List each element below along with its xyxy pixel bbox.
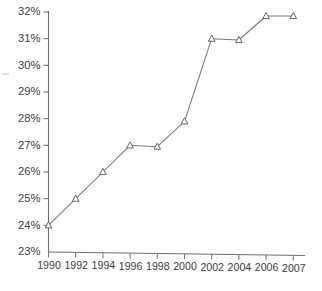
data-markers xyxy=(45,12,296,228)
data-point-marker xyxy=(208,35,215,41)
x-axis: 1990199219941996199820002002200420062007 xyxy=(37,252,305,274)
x-tick-label: 1990 xyxy=(37,259,61,271)
data-point-marker xyxy=(127,142,134,148)
series-line xyxy=(49,16,294,225)
data-point-marker xyxy=(181,118,188,124)
chart-canvas: 23%24%25%26%27%28%29%30%31%32% 199019921… xyxy=(0,0,322,291)
x-tick-label: 2006 xyxy=(255,261,279,273)
x-tick-label: 2002 xyxy=(200,261,224,273)
y-tick-label: 31% xyxy=(18,32,40,44)
y-tick-label: 26% xyxy=(18,165,40,177)
y-tick-label: 29% xyxy=(18,85,40,97)
x-tick-label: 2007 xyxy=(282,262,306,274)
x-tick-label: 1996 xyxy=(119,260,143,272)
y-tick-label: 27% xyxy=(18,139,40,151)
x-tick-label: 1994 xyxy=(92,259,116,271)
y-axis: 23%24%25%26%27%28%29%30%31%32% xyxy=(18,5,48,257)
y-tick-label: 24% xyxy=(18,219,40,231)
y-tick-label: 32% xyxy=(18,5,40,17)
screenshot-page: 23%24%25%26%27%28%29%30%31%32% 199019921… xyxy=(0,0,322,291)
x-tick-label: 2004 xyxy=(228,261,252,273)
x-tick-label: 2000 xyxy=(173,260,197,272)
x-tick-label: 1998 xyxy=(146,260,170,272)
y-tick-label: 25% xyxy=(18,192,40,204)
line-chart: 23%24%25%26%27%28%29%30%31%32% 199019921… xyxy=(0,0,322,291)
y-tick-label: 28% xyxy=(18,112,40,124)
data-series xyxy=(49,16,294,225)
x-tick-label: 1992 xyxy=(64,259,88,271)
y-tick-label: 30% xyxy=(18,59,40,71)
y-tick-label: 23% xyxy=(18,245,40,257)
